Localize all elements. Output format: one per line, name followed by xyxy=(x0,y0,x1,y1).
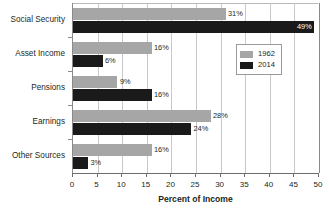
bar-1962-earnings xyxy=(73,110,211,122)
bar-chart: Social Security Asset Income Pensions Ea… xyxy=(0,0,329,214)
legend-label-2014: 2014 xyxy=(258,61,275,69)
x-tick-40 xyxy=(269,173,270,177)
x-tick-15 xyxy=(146,173,147,177)
x-tick-label-20: 20 xyxy=(158,180,182,189)
x-tick-label-0: 0 xyxy=(60,180,84,189)
gridline-50 xyxy=(319,3,320,173)
legend-swatch-2014 xyxy=(240,62,253,69)
bar-2014-pensions xyxy=(73,89,152,101)
bar-value-2014-other-sources: 3% xyxy=(91,159,102,167)
bar-1962-pensions xyxy=(73,76,117,88)
bar-2014-asset-income xyxy=(73,55,103,67)
legend-item-1962[interactable]: 1962 xyxy=(240,49,277,59)
bar-2014-other-sources xyxy=(73,157,88,169)
bar-value-1962-other-sources: 16% xyxy=(154,146,169,154)
category-label-social-security: Social Security xyxy=(0,15,65,24)
x-tick-label-25: 25 xyxy=(183,180,207,189)
category-label-pensions: Pensions xyxy=(0,83,65,92)
x-tick-50 xyxy=(318,173,319,177)
bar-value-2014-asset-income: 6% xyxy=(105,57,116,65)
bar-1962-other-sources xyxy=(73,144,152,156)
x-tick-25 xyxy=(195,173,196,177)
x-tick-label-5: 5 xyxy=(85,180,109,189)
x-tick-0 xyxy=(72,173,73,177)
chart-legend: 1962 2014 xyxy=(236,44,282,75)
category-label-asset-income: Asset Income xyxy=(0,49,65,58)
x-tick-label-45: 45 xyxy=(281,180,305,189)
bar-value-1962-asset-income: 16% xyxy=(154,44,169,52)
legend-label-1962: 1962 xyxy=(258,50,275,58)
x-tick-label-10: 10 xyxy=(109,180,133,189)
x-tick-20 xyxy=(170,173,171,177)
x-tick-label-35: 35 xyxy=(232,180,256,189)
legend-swatch-1962 xyxy=(240,51,253,58)
category-axis: Social Security Asset Income Pensions Ea… xyxy=(0,3,69,173)
x-tick-10 xyxy=(121,173,122,177)
bar-value-1962-earnings: 28% xyxy=(213,112,228,120)
x-tick-label-40: 40 xyxy=(257,180,281,189)
x-tick-label-15: 15 xyxy=(134,180,158,189)
bar-value-2014-social-security: 49% xyxy=(297,23,312,31)
x-tick-label-50: 50 xyxy=(306,180,329,189)
bar-1962-asset-income xyxy=(73,42,152,54)
bar-value-2014-pensions: 16% xyxy=(154,91,169,99)
bar-2014-earnings xyxy=(73,123,191,135)
x-tick-30 xyxy=(220,173,221,177)
x-tick-35 xyxy=(244,173,245,177)
x-tick-5 xyxy=(97,173,98,177)
x-tick-45 xyxy=(293,173,294,177)
bar-value-2014-earnings: 24% xyxy=(194,125,209,133)
bar-value-1962-pensions: 9% xyxy=(120,78,131,86)
category-label-earnings: Earnings xyxy=(0,117,65,126)
bar-1962-social-security xyxy=(73,8,226,20)
plot-area: 31% 49% 16% 6% 9% 16% 28% 24% 16% 3% xyxy=(72,3,318,173)
bar-value-1962-social-security: 31% xyxy=(228,10,243,18)
category-label-other-sources: Other Sources xyxy=(0,151,65,160)
bar-2014-social-security xyxy=(73,21,314,33)
legend-item-2014[interactable]: 2014 xyxy=(240,60,277,70)
x-tick-label-30: 30 xyxy=(208,180,232,189)
x-axis-title: Percent of Income xyxy=(72,194,319,204)
